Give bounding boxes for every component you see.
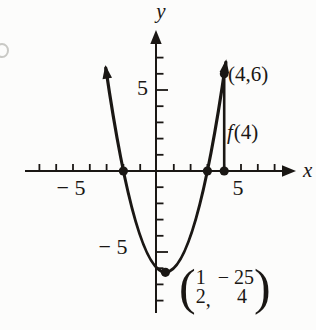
vertex-label: ( 1 2 , − 25 4 ) [179,264,271,310]
vertex-y-denominator: 4 [218,287,254,306]
vertex-x-denominator: 2 [196,287,206,306]
x-axis-label: x [303,160,312,181]
vertex-close-paren: ) [254,264,271,310]
x-intercept-dot-neg2 [119,166,128,175]
x-tick-label-neg5: − 5 [54,177,88,199]
f4-label-argument: (4) [234,120,259,144]
vertex-dot [161,268,170,277]
x-tick-label-pos5: 5 [228,177,248,199]
point-4-6-label: (4,6) [228,64,268,85]
vertex-x-fraction: 1 2 [196,268,206,306]
y-tick-label-neg5: − 5 [96,236,130,258]
vertex-y-fraction: − 25 4 [218,268,254,306]
f4-label-function-name: f [227,120,233,144]
f4-label: f(4) [227,122,258,143]
x-intercept-dot-3 [203,166,212,175]
curve-left-arrow-icon [103,65,113,79]
vertex-open-paren: ( [179,264,196,310]
vertex-y-numerator: − 25 [218,268,254,287]
y-tick-label-pos5: 5 [128,77,148,99]
point-4-0-dot [220,166,229,175]
y-axis-label: y [150,1,172,22]
x-axis-arrow-icon [282,165,296,176]
parabola-figure: y x − 5 5 − 5 5 (4,6) f(4) ( 1 2 , − 25 … [0,0,316,330]
y-axis-arrow-icon [150,30,161,44]
y-axis-ticks [156,58,168,301]
vertex-comma: , [206,294,211,304]
